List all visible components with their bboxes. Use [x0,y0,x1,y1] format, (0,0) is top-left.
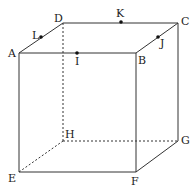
point-K [119,20,123,24]
label-B: B [138,54,146,67]
label-L: L [32,29,40,42]
label-J: J [159,37,164,50]
label-D: D [54,12,63,25]
label-H: H [65,128,75,141]
edge-FG [136,141,178,172]
label-G: G [181,134,190,147]
label-E: E [8,172,16,185]
hidden-edge-EH [19,141,63,172]
label-C: C [181,15,189,28]
label-A: A [7,47,17,60]
label-K: K [116,7,125,20]
cube-diagram: A B C D E F G H I J K L [0,0,195,191]
point-L [39,35,43,39]
label-F: F [131,175,139,188]
label-I: I [75,55,79,68]
